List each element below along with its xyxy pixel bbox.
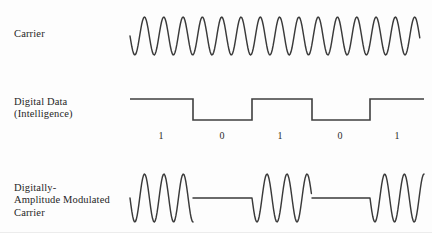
digital-data-waveform — [130, 99, 424, 120]
am-carrier-row-label: Digitally-Amplitude ModulatedCarrier — [14, 182, 110, 219]
am-carrier-waveform — [130, 174, 424, 222]
carrier-waveform — [130, 17, 420, 55]
digital-data-row-label: Digital Data(Intelligence) — [14, 96, 73, 121]
carrier-row-label: Carrier — [14, 28, 45, 40]
bit-label: 1 — [271, 130, 289, 141]
waveform-figure: Carrier Digital Data(Intelligence) Digit… — [0, 0, 432, 233]
bit-label: 1 — [152, 130, 170, 141]
bit-label: 0 — [331, 130, 349, 141]
bit-label: 0 — [213, 130, 231, 141]
bit-label: 1 — [388, 130, 406, 141]
